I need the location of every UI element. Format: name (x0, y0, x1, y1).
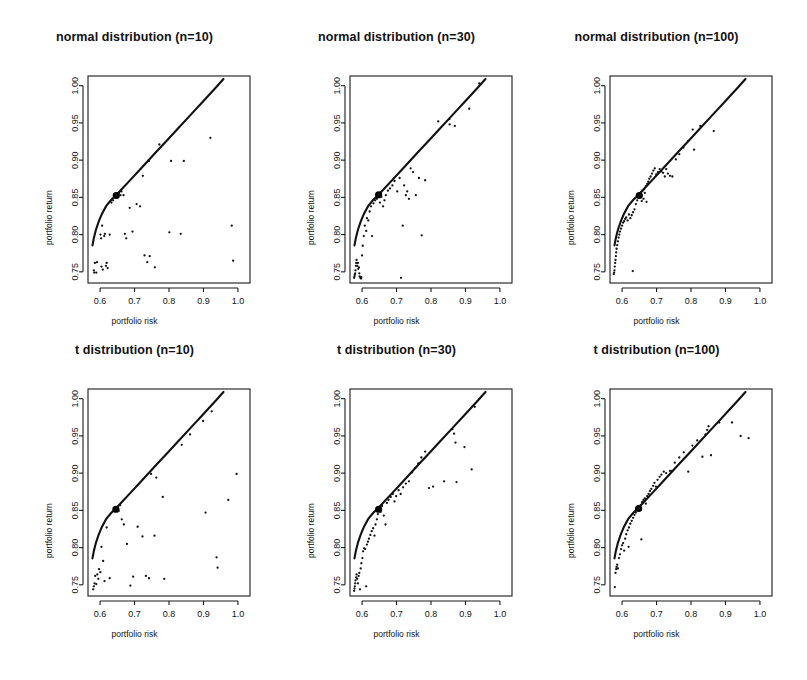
y-tick-label: 0.85 (592, 502, 602, 520)
data-point (618, 557, 620, 559)
data-point (149, 255, 151, 257)
data-point (139, 205, 141, 207)
data-point (635, 511, 637, 513)
data-point (613, 271, 615, 273)
data-point (739, 435, 741, 437)
data-point (614, 259, 616, 261)
y-tick-label: 0.85 (592, 189, 602, 207)
data-point (154, 266, 156, 268)
data-point (632, 517, 634, 519)
data-point (209, 137, 211, 139)
data-point (671, 470, 673, 472)
y-tick-label: 0.85 (70, 502, 80, 520)
data-point (367, 219, 369, 221)
data-point (106, 267, 108, 269)
data-point (693, 149, 695, 151)
y-tick-label: 0.75 (332, 263, 342, 281)
figure-grid: normal distribution (n=10)portfolio retu… (0, 0, 807, 680)
data-point (443, 480, 445, 482)
x-tick-label: 0.7 (650, 296, 663, 306)
data-point (615, 251, 617, 253)
data-point (361, 557, 363, 559)
data-point (691, 444, 693, 446)
data-point (455, 481, 457, 483)
data-point (453, 433, 455, 435)
data-point (383, 514, 385, 516)
data-point (638, 506, 640, 508)
x-tick-label: 0.6 (356, 296, 369, 306)
data-point (96, 573, 98, 575)
data-point (713, 130, 715, 132)
data-point (146, 261, 148, 263)
data-point (120, 190, 122, 192)
data-point (136, 526, 138, 528)
data-point (372, 527, 374, 529)
data-point (387, 499, 389, 501)
data-point (656, 479, 658, 481)
data-point (105, 526, 107, 528)
data-point (400, 277, 402, 279)
data-point (406, 190, 408, 192)
data-point (747, 437, 749, 439)
data-point (109, 577, 111, 579)
x-tick-label: 0.7 (128, 296, 141, 306)
data-point (644, 497, 646, 499)
data-point (428, 487, 430, 489)
x-tick-label: 0.8 (163, 609, 176, 619)
data-point (383, 199, 385, 201)
data-point (637, 196, 639, 198)
data-point (420, 456, 422, 458)
data-point (358, 572, 360, 574)
x-tick-label: 0.6 (94, 609, 107, 619)
data-point (636, 508, 638, 510)
y-tick-label: 0.85 (332, 189, 342, 207)
plot-area: 0.60.70.80.91.00.750.800.850.900.951.00 (522, 0, 791, 340)
data-point (393, 500, 395, 502)
data-point (632, 211, 634, 213)
data-point (471, 468, 473, 470)
efficient-frontier-curve (354, 392, 485, 558)
data-point (99, 571, 101, 573)
data-point (124, 233, 126, 235)
x-tick-label: 0.8 (163, 296, 176, 306)
y-tick-label: 0.75 (592, 576, 602, 594)
data-point (119, 194, 121, 196)
data-point (360, 276, 362, 278)
data-point (403, 184, 405, 186)
data-point (94, 575, 96, 577)
data-point (647, 493, 649, 495)
data-point (103, 580, 105, 582)
data-point (641, 200, 643, 202)
data-point (98, 568, 100, 570)
y-tick-label: 0.90 (70, 151, 80, 169)
x-tick-label: 1.0 (232, 296, 245, 306)
data-point (377, 513, 379, 515)
data-point (119, 504, 121, 506)
data-point (365, 585, 367, 587)
data-point (94, 262, 96, 264)
x-tick-label: 0.6 (94, 296, 107, 306)
data-point (620, 548, 622, 550)
data-point (125, 237, 127, 239)
data-point (353, 590, 355, 592)
y-tick-label: 0.95 (592, 114, 602, 132)
data-point (215, 556, 217, 558)
x-tick-label: 0.7 (128, 609, 141, 619)
data-point (183, 160, 185, 162)
data-point (372, 202, 374, 204)
data-point (389, 187, 391, 189)
data-point (235, 473, 237, 475)
y-tick-label: 0.75 (70, 263, 80, 281)
data-point (231, 225, 233, 227)
data-point (101, 225, 103, 227)
efficient-frontier-curve (614, 79, 745, 245)
data-point (662, 172, 664, 174)
data-point (641, 501, 643, 503)
data-point (621, 544, 623, 546)
chart-panel: normal distribution (n=30)portfolio retu… (262, 0, 531, 340)
data-point (664, 175, 666, 177)
data-point (135, 203, 137, 205)
data-point (353, 587, 355, 589)
data-point (421, 234, 423, 236)
data-point (354, 582, 356, 584)
